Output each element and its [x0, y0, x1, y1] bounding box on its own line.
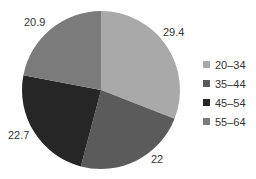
- slice-value-label: 22.7: [8, 129, 29, 141]
- legend-label: 45–54: [215, 97, 246, 109]
- legend-swatch: [203, 80, 210, 87]
- legend-swatch: [203, 61, 210, 68]
- legend-swatch: [203, 99, 210, 106]
- legend-item-20-34: 20–34: [203, 55, 246, 74]
- slice-value-label: 22: [151, 153, 163, 165]
- legend-item-35-44: 35–44: [203, 74, 246, 93]
- legend: 20–34 35–44 45–54 55–64: [203, 55, 246, 131]
- legend-label: 55–64: [215, 116, 246, 128]
- slice-value-label: 20.9: [24, 16, 45, 28]
- slice-value-label: 29.4: [163, 26, 184, 38]
- pie-slices: [22, 11, 180, 169]
- legend-label: 35–44: [215, 78, 246, 90]
- legend-item-45-54: 45–54: [203, 93, 246, 112]
- legend-label: 20–34: [215, 59, 246, 71]
- legend-item-55-64: 55–64: [203, 112, 246, 131]
- legend-swatch: [203, 118, 210, 125]
